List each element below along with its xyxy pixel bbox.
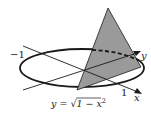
label-neg-one: −1 [10, 49, 25, 60]
diagram-canvas: −1 y 1 x y = √1 − x2 [0, 0, 151, 113]
svg-text:y = √1 − x2: y = √1 − x2 [50, 97, 106, 109]
label-pos-one: 1 [121, 87, 127, 98]
curve-equation-label: y = √1 − x2 [50, 97, 106, 109]
label-x-axis: x [134, 92, 140, 103]
label-y-axis: y [140, 50, 147, 61]
